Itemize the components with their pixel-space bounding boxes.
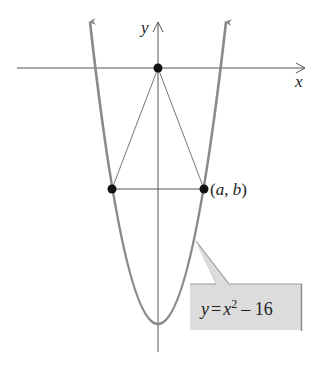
y-axis-label: y — [139, 18, 149, 37]
x-axis-label: x — [294, 72, 303, 91]
right-point — [200, 185, 209, 194]
left-point — [108, 185, 117, 194]
parabola-figure: y x (a, b) y=x2– 16 — [0, 0, 318, 368]
point-label: (a, b) — [210, 180, 247, 199]
equation-callout: y=x2– 16 — [190, 241, 302, 331]
origin-point — [154, 64, 163, 73]
